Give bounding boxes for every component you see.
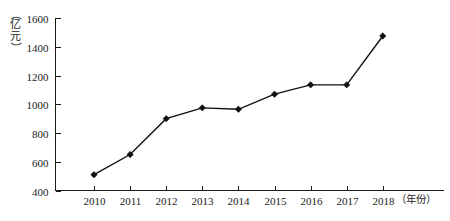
y-tick-label: 400 xyxy=(32,186,49,198)
y-tick-label: 1000 xyxy=(27,99,50,111)
x-axis-tick-labels: 201020112012201320142015201620172018 xyxy=(84,195,396,207)
line-chart: 4006008001000120014001600 20102011201220… xyxy=(0,0,450,221)
x-tick-label: 2014 xyxy=(228,195,251,207)
y-tick-label: 1200 xyxy=(27,71,50,83)
x-tick-label: 2011 xyxy=(120,195,142,207)
x-tick-label: 2018 xyxy=(373,195,396,207)
x-tick-label: 2016 xyxy=(301,195,324,207)
y-tick-label: 1400 xyxy=(27,42,50,54)
x-tick-label: 2012 xyxy=(156,195,178,207)
y-axis-label-open-paren: （ xyxy=(11,9,20,20)
chart-canvas: 4006008001000120014001600 20102011201220… xyxy=(0,0,450,221)
y-tick-label: 800 xyxy=(32,128,49,140)
x-tick-label: 2015 xyxy=(265,195,288,207)
y-tick-label: 600 xyxy=(32,157,49,169)
x-axis-label: （年份） xyxy=(396,191,436,206)
y-axis-label-close-paren: ） xyxy=(11,42,20,53)
y-tick-label: 1600 xyxy=(27,13,50,25)
y-axis-label: （ 亿 元 ） xyxy=(5,10,25,52)
x-tick-label: 2017 xyxy=(337,195,360,207)
x-tick-label: 2013 xyxy=(192,195,215,207)
x-tick-label: 2010 xyxy=(84,195,107,207)
